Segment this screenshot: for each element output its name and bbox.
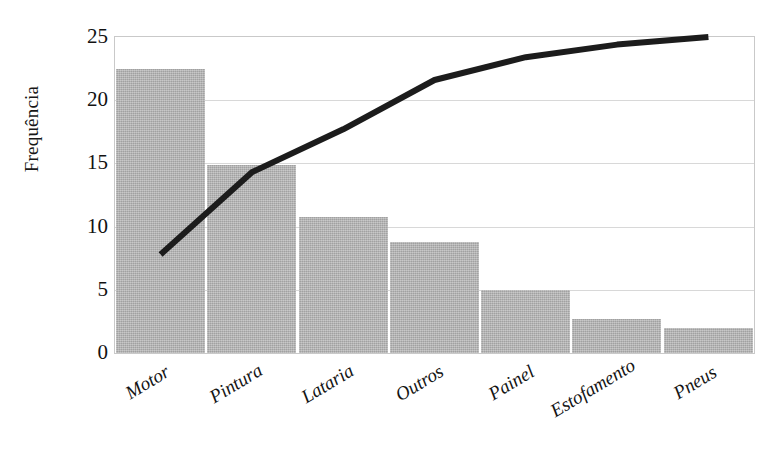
y-axis-title: Frequência — [21, 59, 43, 199]
y-tick-label: 10 — [62, 215, 108, 236]
x-tick-label: Estofamento — [547, 355, 638, 420]
y-tick-label: 25 — [62, 26, 108, 47]
x-tick-label: Motor — [122, 362, 173, 403]
x-tick-label: Pintura — [206, 360, 266, 406]
plot-area — [114, 36, 755, 354]
y-tick-label: 5 — [62, 278, 108, 299]
cumulative-line-layer — [115, 37, 754, 353]
y-tick-label: 15 — [62, 152, 108, 173]
cumulative-line — [161, 37, 709, 254]
x-tick-label: Pneus — [670, 362, 720, 402]
x-tick-label: Outros — [392, 361, 446, 404]
y-tick-label: 20 — [62, 89, 108, 110]
x-tick-label: Painel — [485, 361, 537, 403]
pareto-chart: Frequência 0510152025 MotorPinturaLatari… — [0, 0, 782, 464]
y-axis-tick-labels: 0510152025 — [62, 0, 108, 464]
y-tick-label: 0 — [62, 342, 108, 363]
x-tick-label: Lataria — [298, 360, 357, 406]
cumulative-line-svg — [115, 37, 754, 353]
